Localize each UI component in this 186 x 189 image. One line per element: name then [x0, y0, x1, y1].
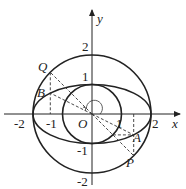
y-tick--2: -2	[77, 174, 88, 189]
dashed-o-to-a	[92, 114, 134, 135]
diagram: -2 -1 1 2 2 1 -1 -2 x y O Q B A P	[0, 0, 186, 189]
point-p-label: P	[125, 155, 134, 170]
point-q-label: Q	[38, 59, 48, 74]
angle-arc-small	[83, 107, 86, 111]
x-tick--2: -2	[14, 116, 25, 131]
y-axis-label: y	[95, 11, 103, 26]
y-tick-2: 2	[82, 39, 89, 54]
point-a-label: A	[132, 130, 141, 145]
x-tick-1: 1	[116, 116, 123, 131]
angle-arc	[86, 100, 102, 114]
origin-label: O	[78, 116, 88, 131]
y-tick--1: -1	[77, 143, 88, 158]
point-b-label: B	[37, 85, 45, 100]
dashed-o-to-b	[50, 93, 92, 114]
x-tick-2: 2	[152, 116, 159, 131]
x-tick--1: -1	[46, 116, 57, 131]
x-axis-label: x	[171, 116, 178, 131]
y-tick-1: 1	[82, 69, 89, 84]
diagram-svg: -2 -1 1 2 2 1 -1 -2 x y O Q B A P	[0, 0, 186, 189]
